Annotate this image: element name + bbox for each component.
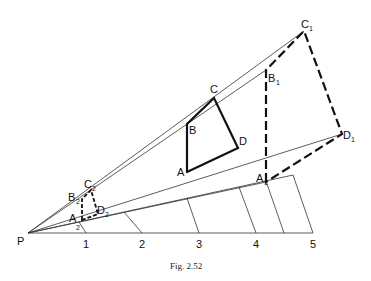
label-C2: C — [84, 178, 92, 190]
scale-label-3: 3 — [196, 238, 202, 250]
label-B2: B — [68, 191, 75, 203]
label-D: D — [239, 135, 247, 147]
svg-text:2: 2 — [76, 198, 80, 205]
svg-text:1: 1 — [276, 79, 280, 86]
parallel-4 — [239, 187, 256, 233]
label-A: A — [177, 166, 185, 178]
label-C1: C — [301, 18, 309, 30]
ray-to-A1 — [28, 182, 266, 233]
label-B: B — [189, 124, 196, 136]
svg-text:2: 2 — [92, 185, 96, 192]
parallel-3 — [187, 198, 199, 233]
scale-closing-line — [293, 175, 313, 233]
label-D1: D — [343, 129, 351, 141]
quad-A1B1C1D1 — [266, 31, 342, 182]
svg-text:2: 2 — [76, 224, 80, 231]
parallel-2 — [124, 212, 142, 233]
enlargement-diagram: P 1 2 3 4 5 A B C D A 1 B 1 C 1 D 1 A 2 … — [0, 0, 371, 281]
svg-text:1: 1 — [309, 25, 313, 32]
label-A1: A — [256, 172, 264, 184]
scale-label-5: 5 — [310, 238, 316, 250]
label-D2: D — [97, 204, 105, 216]
scale-label-1: 1 — [83, 238, 89, 250]
label-P: P — [17, 235, 24, 247]
scale-label-4: 4 — [253, 238, 259, 250]
parallel-1 — [79, 222, 86, 233]
parallel-4b — [266, 181, 284, 233]
label-C: C — [210, 83, 218, 95]
svg-text:1: 1 — [264, 179, 268, 186]
svg-text:1: 1 — [351, 136, 355, 143]
label-B1: B — [268, 72, 275, 84]
figure-caption: Fig. 2.52 — [170, 261, 202, 271]
svg-text:2: 2 — [105, 211, 109, 218]
scale-label-2: 2 — [139, 238, 145, 250]
label-A2: A — [69, 212, 77, 224]
